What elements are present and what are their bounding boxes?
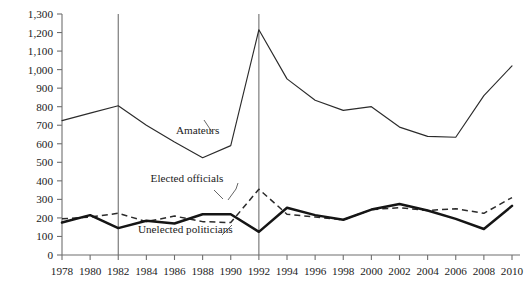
x-tick-label: 2008 <box>473 265 496 277</box>
x-tick-label: 1982 <box>107 265 129 277</box>
series-line-unelected-politicians <box>62 204 512 232</box>
x-tick-label: 1986 <box>163 265 186 277</box>
y-axis-ticks <box>57 14 62 255</box>
y-tick-label: 700 <box>36 119 53 131</box>
y-tick-label: 1,100 <box>28 45 54 57</box>
x-tick-label: 1980 <box>79 265 102 277</box>
chart-canvas: 01002003004005006007008009001,0001,1001,… <box>0 0 528 290</box>
y-tick-label: 600 <box>36 138 53 150</box>
y-tick-label: 800 <box>36 101 53 113</box>
x-tick-label: 1998 <box>332 265 355 277</box>
y-tick-label: 100 <box>36 230 53 242</box>
x-tick-label: 1996 <box>304 265 327 277</box>
x-tick-label: 1990 <box>220 265 243 277</box>
x-axis-labels: 1978198019821984198619881990199219941996… <box>51 265 524 277</box>
x-tick-label: 2000 <box>360 265 383 277</box>
y-axis-labels: 01002003004005006007008009001,0001,1001,… <box>28 8 54 261</box>
annotation-label-elected-officials: Elected officials <box>151 172 224 184</box>
x-axis-ticks <box>62 255 512 260</box>
x-tick-label: 2004 <box>416 265 439 277</box>
y-tick-label: 200 <box>36 212 53 224</box>
y-tick-label: 900 <box>36 82 53 94</box>
x-tick-label: 2006 <box>445 265 468 277</box>
x-tick-label: 1994 <box>276 265 299 277</box>
x-tick-label: 1984 <box>135 265 158 277</box>
x-tick-label: 2002 <box>388 265 410 277</box>
y-tick-label: 500 <box>36 156 53 168</box>
line-chart: 01002003004005006007008009001,0001,1001,… <box>0 0 528 290</box>
x-tick-label: 1988 <box>191 265 214 277</box>
data-series-group <box>62 30 512 232</box>
x-tick-label: 2010 <box>501 265 524 277</box>
y-tick-label: 300 <box>36 193 53 205</box>
x-tick-label: 1992 <box>248 265 270 277</box>
y-tick-label: 1,200 <box>28 27 54 39</box>
y-tick-label: 1,000 <box>28 64 54 76</box>
series-line-elected-officials <box>62 189 512 222</box>
leader-elected-a <box>214 190 223 199</box>
annotation-label-amateurs: Amateurs <box>176 124 220 136</box>
y-tick-label: 1,300 <box>28 8 54 20</box>
y-tick-label: 0 <box>47 249 53 261</box>
leader-elected-b <box>228 189 236 200</box>
y-tick-label: 400 <box>36 175 53 187</box>
x-tick-label: 1978 <box>51 265 74 277</box>
series-line-amateurs <box>62 30 512 158</box>
annotation-label-unelected-politicians: Unelected politicians <box>138 223 233 235</box>
leader-elected-c <box>236 183 238 189</box>
